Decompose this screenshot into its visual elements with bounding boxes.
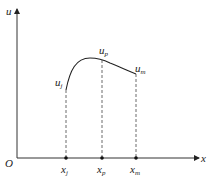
y-axis-label: u: [6, 5, 12, 17]
diagram-canvas: u x O uj up um xj xp xm: [0, 0, 210, 184]
point-xp: [100, 156, 104, 160]
origin-label: O: [5, 157, 13, 169]
u-curve: [66, 58, 136, 90]
label-xm: xm: [129, 163, 140, 177]
label-xj: xj: [60, 163, 68, 177]
x-axis-label: x: [200, 152, 206, 164]
point-xj: [64, 156, 68, 160]
point-xm: [134, 156, 138, 160]
label-uj: uj: [55, 76, 63, 90]
label-up: up: [99, 44, 109, 58]
label-xp: xp: [96, 163, 106, 177]
label-um: um: [135, 62, 146, 76]
